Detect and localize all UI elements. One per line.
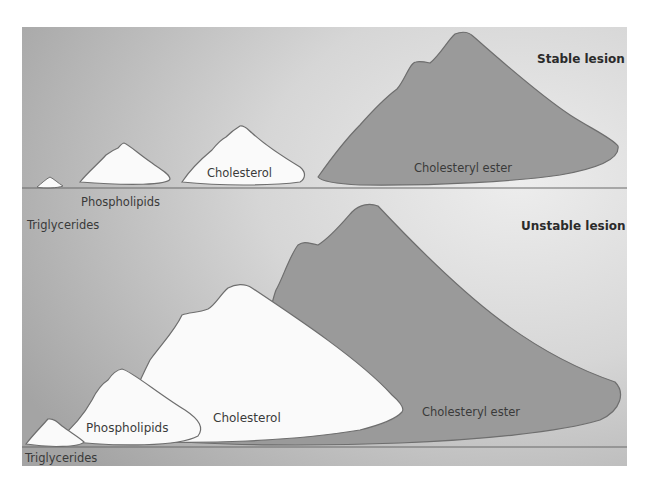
stable-label-phospholipids: Phospholipids	[81, 195, 160, 209]
stable-label-cholesterol: Cholesterol	[207, 166, 272, 180]
unstable-label-triglycerides: Triglycerides	[24, 451, 97, 465]
unstable-label-phospholipids: Phospholipids	[86, 421, 169, 435]
unstable-label-cholesterol: Cholesterol	[213, 411, 281, 425]
stable-label-cholesteryl-ester: Cholesteryl ester	[414, 161, 512, 175]
unstable-label-cholesteryl-ester: Cholesteryl ester	[422, 405, 520, 419]
diagram-canvas: Stable lesion Cholesterol Cholesteryl es…	[0, 0, 649, 486]
unstable-lesion-title: Unstable lesion	[521, 219, 626, 233]
stable-lesion-title: Stable lesion	[537, 52, 625, 66]
lipid-composition-figure: Stable lesion Cholesterol Cholesteryl es…	[0, 0, 649, 486]
stable-label-triglycerides: Triglycerides	[26, 218, 99, 232]
